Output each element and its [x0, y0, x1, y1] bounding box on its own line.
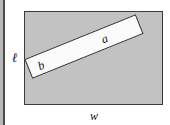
board-height-label: ℓ	[12, 51, 17, 64]
cut-bar-container: a b	[24, 11, 144, 81]
cut-bar-rectangle: a b	[24, 14, 143, 78]
page-gutter-rule	[3, 0, 5, 125]
board-face-rectangle: a b	[24, 11, 163, 105]
board-width-label: w	[90, 110, 98, 122]
figure-root: a b ℓ w	[0, 0, 170, 125]
bar-length-label: a	[100, 32, 110, 45]
bar-width-label: b	[36, 58, 46, 71]
